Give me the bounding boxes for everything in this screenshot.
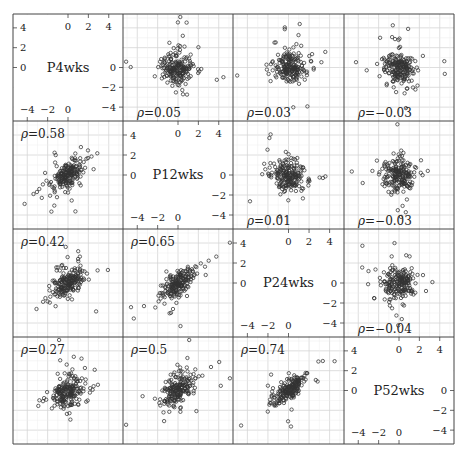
data-point — [68, 294, 71, 297]
data-point — [408, 255, 411, 258]
data-point — [443, 60, 446, 63]
correlation-label: ρ=0.03 — [246, 106, 291, 120]
scatter-panel-3-1: ρ=0.5 — [123, 337, 233, 444]
data-point — [83, 366, 86, 369]
data-point — [87, 278, 90, 281]
diagonal-panel-P4wks: P4wks4200−2−4024−4−20 — [13, 14, 123, 121]
scatter-panel-2-3: ρ=−0.04 — [344, 229, 454, 337]
data-point — [62, 272, 65, 275]
scatter-panel-1-2: ρ=0.01 — [233, 121, 344, 229]
data-point — [154, 306, 157, 309]
data-point — [181, 88, 184, 91]
scatter-panel-3-0: ρ=0.27 — [13, 337, 123, 444]
tick-label: −2 — [261, 320, 276, 331]
variable-label: P52wks — [374, 383, 425, 398]
tick-label: −4 — [101, 102, 116, 113]
data-point — [400, 317, 403, 320]
data-point — [387, 190, 390, 193]
data-point — [92, 385, 95, 388]
data-point — [72, 355, 75, 358]
data-point — [62, 266, 65, 269]
tick-label: 0 — [441, 385, 447, 396]
data-point — [59, 359, 62, 362]
data-point — [381, 183, 384, 186]
scatter-panel-0-3: ρ=−0.03 — [344, 14, 454, 121]
data-point — [195, 265, 198, 268]
scatter-points — [23, 145, 99, 213]
data-point — [215, 78, 218, 81]
data-point — [410, 267, 413, 270]
data-point — [300, 44, 303, 47]
tick-label: 4 — [20, 22, 26, 33]
tick-label: 2 — [195, 128, 201, 139]
data-point — [350, 170, 353, 173]
data-point — [318, 176, 321, 179]
tick-label: 0 — [285, 236, 291, 247]
scatter-points — [129, 241, 231, 328]
variable-label: P12wks — [153, 167, 204, 182]
data-point — [195, 409, 198, 412]
data-point — [268, 398, 271, 401]
data-point — [361, 181, 364, 184]
data-point — [94, 310, 97, 313]
data-point — [70, 298, 73, 301]
data-point — [166, 81, 169, 84]
tick-label: 2 — [130, 150, 136, 161]
tick-label: −4 — [322, 318, 337, 329]
tick-label: 0 — [331, 278, 337, 289]
data-point — [219, 384, 222, 387]
tick-label: 0 — [110, 62, 116, 73]
correlation-label: ρ=0.01 — [246, 214, 291, 228]
scatter-points — [236, 22, 327, 109]
data-point — [300, 75, 303, 78]
data-point — [273, 398, 276, 401]
tick-label: 4 — [130, 130, 136, 141]
data-point — [48, 289, 51, 292]
data-point — [365, 69, 368, 72]
data-point — [320, 61, 323, 64]
data-point — [301, 197, 304, 200]
data-point — [264, 168, 267, 171]
correlation-label: ρ=0.74 — [240, 343, 285, 357]
data-point — [186, 356, 189, 359]
data-point — [83, 166, 86, 169]
data-point — [172, 46, 175, 49]
data-point — [44, 296, 47, 299]
data-point — [49, 295, 52, 298]
data-point — [421, 273, 424, 276]
tick-label: −4 — [432, 425, 447, 436]
scatter-panel-0-2: ρ=0.03 — [233, 14, 344, 121]
data-point — [162, 411, 165, 414]
data-point — [185, 21, 188, 24]
scatter-points — [124, 15, 225, 96]
data-point — [50, 210, 53, 213]
data-point — [80, 357, 83, 360]
data-point — [55, 196, 58, 199]
tick-label: −4 — [20, 104, 35, 115]
tick-label: 2 — [85, 21, 91, 32]
data-point — [403, 92, 406, 95]
diagonal-panel-P12wks: P12wks4200−2−4024−4−20 — [123, 121, 233, 229]
data-point — [405, 198, 408, 201]
data-point — [45, 390, 48, 393]
tick-label: −4 — [351, 427, 366, 438]
data-point — [268, 166, 271, 169]
data-point — [132, 317, 135, 320]
data-point — [402, 190, 405, 193]
data-point — [416, 84, 419, 87]
data-point — [215, 255, 218, 258]
scatter-panel-1-3: ρ=−0.03 — [344, 121, 454, 229]
data-point — [267, 72, 270, 75]
data-point — [317, 360, 320, 363]
correlation-label: ρ=−0.03 — [357, 214, 412, 228]
data-point — [82, 171, 85, 174]
data-point — [181, 34, 184, 37]
data-point — [171, 307, 174, 310]
data-point — [333, 360, 336, 363]
scatter-panel-0-1: ρ=0.05 — [123, 14, 233, 121]
tick-label: 4 — [106, 21, 112, 32]
data-point — [361, 244, 364, 247]
scatter-points — [350, 123, 429, 219]
data-point — [413, 175, 416, 178]
data-point — [354, 61, 357, 64]
